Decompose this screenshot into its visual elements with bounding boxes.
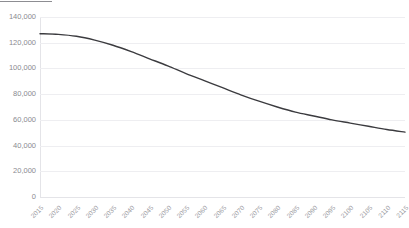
series-line-population xyxy=(40,34,405,132)
x-axis-tick-labels: 2015202020252030203520402045205020552060… xyxy=(40,197,405,228)
plot-area xyxy=(40,17,405,197)
y-tick-label-0: 0 xyxy=(0,193,36,201)
y-tick-label-60000: 60,000 xyxy=(0,116,36,124)
cropped-chart-title xyxy=(0,0,407,5)
series-layer xyxy=(40,17,405,197)
y-tick-label-20000: 20,000 xyxy=(0,167,36,175)
y-tick-label-80000: 80,000 xyxy=(0,90,36,98)
y-axis-tick-labels: 020,00040,00060,00080,000100,000120,0001… xyxy=(0,0,36,228)
y-tick-label-120000: 120,000 xyxy=(0,39,36,47)
y-tick-label-140000: 140,000 xyxy=(0,13,36,21)
y-tick-label-40000: 40,000 xyxy=(0,142,36,150)
y-tick-label-100000: 100,000 xyxy=(0,64,36,72)
